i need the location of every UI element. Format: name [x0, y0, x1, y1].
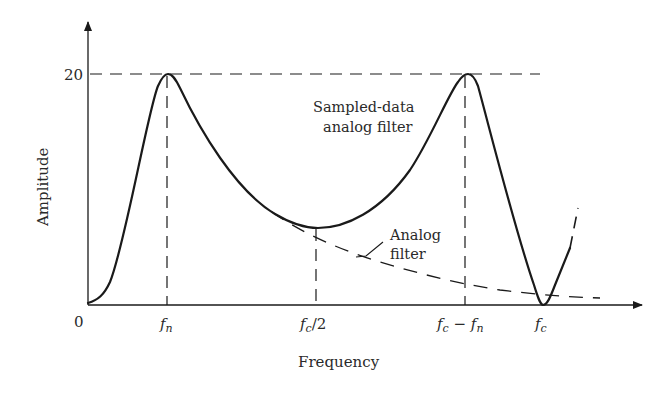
- x-tick-fc-half: fc/2: [299, 315, 326, 335]
- x-tick-fc: fc: [534, 315, 547, 335]
- analog-filter-curve: [272, 212, 600, 298]
- image-response-dashed: [570, 208, 578, 248]
- origin-label: 0: [74, 313, 84, 331]
- y-axis-title: Amplitude: [34, 147, 52, 227]
- x-tick-fn: fn: [159, 315, 173, 335]
- x-tick-fc-minus-fn: fc − fn: [436, 315, 484, 335]
- x-tick-fn-sub: n: [166, 322, 173, 335]
- sampled-filter-label-line2: analog filter: [323, 119, 413, 135]
- analog-filter-label-line1: Analog: [389, 227, 441, 243]
- x-axis-title: Frequency: [298, 353, 380, 371]
- sampled-filter-label-line1: Sampled-data: [313, 99, 415, 115]
- filter-response-chart: 20 0 fn fc/2 fc − fn fc Frequency Amplit…: [0, 0, 672, 393]
- y-tick-20: 20: [64, 66, 83, 84]
- analog-filter-leader: [356, 242, 383, 257]
- analog-filter-label-line2: filter: [390, 246, 426, 262]
